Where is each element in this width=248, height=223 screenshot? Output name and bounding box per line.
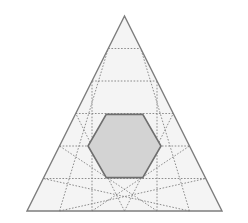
figure-container [0, 0, 248, 223]
triangle-hexagon-diagram [0, 0, 248, 223]
